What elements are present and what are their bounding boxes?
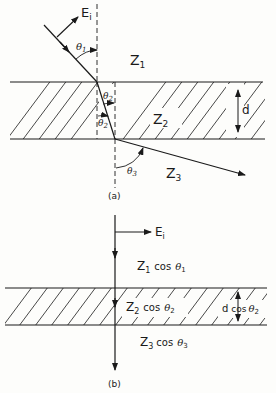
incident-ray xyxy=(44,25,97,82)
figure-a-caption: (a) xyxy=(108,191,121,201)
incident-field-label-b: Ei xyxy=(155,225,165,241)
medium-z3-label: Z3 xyxy=(166,165,181,183)
diagram-canvas: Ei θ1 Z1 θ2 θ2 Z2 d θ3 Z3 (a) xyxy=(0,0,276,393)
incident-field-arrow-a xyxy=(57,17,78,37)
medium-z1-label: Z1 xyxy=(130,52,145,70)
thickness-label-a: d xyxy=(242,103,250,117)
theta3-arc xyxy=(116,148,143,168)
incident-ray-arrow xyxy=(60,42,69,52)
figure-a: Ei θ1 Z1 θ2 θ2 Z2 d θ3 Z3 (a) xyxy=(2,4,276,201)
theta3-label: θ3 xyxy=(127,166,137,178)
incident-field-label-a: Ei xyxy=(81,5,92,22)
figure-b: Ei Z1cosθ1 Z2cosθ2 dcosθ2 Z3cosθ3 (b) xyxy=(0,215,276,389)
oblique-incidence-diagram: Ei θ1 Z1 θ2 θ2 Z2 d θ3 Z3 (a) xyxy=(0,0,276,393)
theta1-label: θ1 xyxy=(76,41,87,54)
medium-z1-impedance-label: Z1cosθ1 xyxy=(137,259,186,275)
medium-z3-impedance-label: Z3cosθ3 xyxy=(140,335,188,351)
figure-b-caption: (b) xyxy=(108,379,121,389)
